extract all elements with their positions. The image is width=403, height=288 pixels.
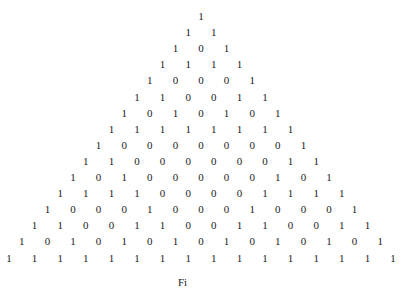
triangle-cell: 0	[67, 204, 79, 215]
triangle-cell: 1	[361, 253, 373, 264]
triangle-cell: 0	[144, 172, 156, 183]
triangle-cell: 1	[131, 124, 143, 135]
triangle-cell: 1	[80, 188, 92, 199]
triangle-cell: 1	[233, 124, 245, 135]
triangle-cell: 0	[157, 188, 169, 199]
triangle-cell: 1	[29, 220, 41, 231]
triangle-cell: 1	[233, 59, 245, 70]
triangle-cell: 1	[169, 43, 181, 54]
triangle-cell: 0	[221, 140, 233, 151]
triangle-cell: 0	[118, 140, 130, 151]
triangle-cell: 1	[233, 92, 245, 103]
triangle-cell: 1	[144, 75, 156, 86]
triangle-cell: 0	[323, 204, 335, 215]
triangle-cell: 0	[221, 172, 233, 183]
triangle-cell: 1	[182, 124, 194, 135]
triangle-cell: 1	[131, 253, 143, 264]
triangle-cell: 0	[182, 188, 194, 199]
triangle-cell: 0	[195, 108, 207, 119]
triangle-cell: 1	[310, 188, 322, 199]
triangle-cell: 1	[131, 188, 143, 199]
triangle-cell: 0	[272, 140, 284, 151]
triangle-cell: 1	[208, 27, 220, 38]
triangle-cell: 0	[233, 188, 245, 199]
triangle-cell: 1	[118, 172, 130, 183]
triangle-cell: 0	[285, 220, 297, 231]
triangle-cell: 1	[272, 236, 284, 247]
triangle-cell: 1	[118, 108, 130, 119]
triangle-cell: 0	[208, 220, 220, 231]
triangle-cell: 0	[144, 140, 156, 151]
triangle-cell: 0	[208, 92, 220, 103]
triangle-cell: 1	[169, 236, 181, 247]
triangle-cell: 1	[54, 253, 66, 264]
triangle-cell: 1	[105, 156, 117, 167]
triangle-cell: 0	[182, 156, 194, 167]
triangle-cell: 1	[54, 220, 66, 231]
triangle-cell: 0	[246, 108, 258, 119]
triangle-cell: 1	[349, 204, 361, 215]
triangle-cell: 1	[387, 253, 399, 264]
triangle-cell: 1	[221, 108, 233, 119]
triangle-cell: 0	[144, 236, 156, 247]
triangle-cell: 1	[157, 92, 169, 103]
triangle-cell: 1	[221, 236, 233, 247]
triangle-cell: 1	[29, 253, 41, 264]
triangle-cell: 1	[272, 172, 284, 183]
triangle-cell: 1	[208, 59, 220, 70]
triangle-cell: 0	[297, 204, 309, 215]
triangle-cell: 1	[259, 188, 271, 199]
triangle-cell: 0	[131, 156, 143, 167]
triangle-cell: 0	[310, 220, 322, 231]
triangle-cell: 1	[259, 92, 271, 103]
triangle-cell: 1	[93, 140, 105, 151]
triangle-cell: 1	[297, 140, 309, 151]
triangle-cell: 1	[246, 75, 258, 86]
triangle-cell: 0	[118, 204, 130, 215]
triangle-cell: 1	[221, 43, 233, 54]
triangle-cell: 1	[67, 172, 79, 183]
triangle-cell: 1	[323, 236, 335, 247]
triangle-cell: 1	[182, 27, 194, 38]
triangle-cell: 1	[67, 236, 79, 247]
triangle-cell: 0	[208, 156, 220, 167]
triangle-cell: 0	[157, 156, 169, 167]
triangle-cell: 0	[195, 43, 207, 54]
triangle-cell: 1	[144, 204, 156, 215]
triangle-cell: 0	[93, 204, 105, 215]
triangle-cell: 0	[246, 172, 258, 183]
triangle-cell: 1	[182, 59, 194, 70]
triangle-cell: 1	[16, 236, 28, 247]
triangle-cell: 0	[169, 172, 181, 183]
triangle-cell: 1	[54, 188, 66, 199]
triangle-cell: 0	[80, 220, 92, 231]
triangle-cell: 1	[157, 253, 169, 264]
triangle-cell: 1	[182, 253, 194, 264]
triangle-cell: 1	[41, 204, 53, 215]
triangle-cell: 1	[105, 124, 117, 135]
triangle-cell: 0	[93, 236, 105, 247]
triangle-cell: 1	[131, 92, 143, 103]
triangle-cell: 1	[208, 253, 220, 264]
triangle-cell: 0	[144, 108, 156, 119]
triangle-cell: 1	[169, 108, 181, 119]
triangle-cell: 1	[336, 220, 348, 231]
triangle-cell: 1	[285, 253, 297, 264]
triangle-cell: 0	[297, 236, 309, 247]
triangle-cell: 0	[195, 140, 207, 151]
triangle-cell: 1	[105, 253, 117, 264]
figure-caption: Fi	[178, 276, 187, 288]
triangle-cell: 0	[195, 172, 207, 183]
triangle-cell: 0	[93, 172, 105, 183]
triangle-cell: 1	[208, 124, 220, 135]
triangle-cell: 1	[3, 253, 15, 264]
triangle-cell: 1	[259, 253, 271, 264]
triangle-cell: 0	[297, 172, 309, 183]
triangle-cell: 0	[195, 75, 207, 86]
triangle-cell: 1	[233, 220, 245, 231]
triangle-cell: 0	[221, 204, 233, 215]
triangle-cell: 1	[285, 124, 297, 135]
triangle-cell: 0	[169, 204, 181, 215]
triangle-cell: 1	[272, 108, 284, 119]
